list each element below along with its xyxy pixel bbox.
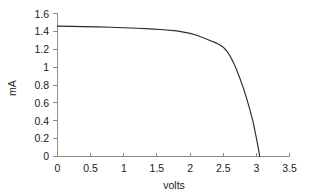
iv-curve-chart: 0 0.2 0.4 0.6 0.8 1 1.2 1.4 1.6 mA bbox=[0, 0, 313, 195]
x-tick-labels: 0 0.5 1 1.5 2 2.5 3 3.5 bbox=[55, 162, 297, 174]
data-series-group bbox=[58, 26, 260, 156]
x-tick-label-6: 3 bbox=[253, 162, 259, 174]
x-tick-label-2: 1 bbox=[121, 162, 127, 174]
chart-canvas: 0 0.2 0.4 0.6 0.8 1 1.2 1.4 1.6 mA bbox=[0, 0, 313, 195]
x-axis-title: volts bbox=[163, 179, 185, 191]
y-tick-label-7: 1.4 bbox=[34, 25, 49, 37]
x-axis: 0 0.5 1 1.5 2 2.5 3 3.5 volts bbox=[55, 153, 297, 192]
y-tick-label-3: 0.6 bbox=[34, 97, 49, 109]
x-tick-label-5: 2.5 bbox=[216, 162, 231, 174]
x-tick-label-3: 1.5 bbox=[150, 162, 165, 174]
y-tick-labels: 0 0.2 0.4 0.6 0.8 1 1.2 1.4 1.6 bbox=[34, 8, 49, 163]
y-tick-label-2: 0.4 bbox=[34, 115, 49, 127]
y-tick-label-0: 0 bbox=[43, 150, 49, 162]
x-tick-label-1: 0.5 bbox=[83, 162, 98, 174]
y-axis-title: mA bbox=[6, 80, 18, 96]
iv-curve-line bbox=[58, 26, 260, 156]
y-axis-ticks bbox=[53, 14, 58, 157]
y-tick-label-4: 0.8 bbox=[34, 79, 49, 91]
y-axis: 0 0.2 0.4 0.6 0.8 1 1.2 1.4 1.6 mA bbox=[6, 8, 58, 163]
x-axis-ticks bbox=[58, 153, 290, 157]
y-tick-label-6: 1.2 bbox=[34, 43, 49, 55]
y-tick-label-8: 1.6 bbox=[34, 8, 49, 20]
x-tick-label-0: 0 bbox=[55, 162, 61, 174]
x-tick-label-7: 3.5 bbox=[282, 162, 297, 174]
x-tick-label-4: 2 bbox=[187, 162, 193, 174]
y-tick-label-1: 0.2 bbox=[34, 132, 49, 144]
y-tick-label-5: 1 bbox=[43, 61, 49, 73]
